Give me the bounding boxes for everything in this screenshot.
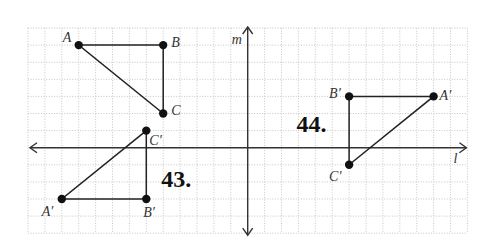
problem-number-44: 44. [296,111,326,137]
axis-m-label: m [232,32,242,47]
problem-43-image-triangle [62,131,147,199]
problem-43-original-point-a [75,41,83,49]
problem-43-original-point-b [159,41,167,49]
problem-43-image-label-b: B′ [143,205,156,220]
problem-43-original-point-c [159,109,167,117]
problem-43-original-label-a: A [62,30,72,45]
problem-43-image-point-a [58,195,66,203]
problem-43-image-label-c: C′ [149,133,162,148]
coordinate-grid-diagram: mlABCA′B′C′A′B′C′43.44. [0,0,485,246]
problem-43-original-label-b: B [171,35,180,50]
problem-44-image-label-c: C′ [329,169,342,184]
problem-43-image-label-a: A′ [41,204,55,219]
labels: mlABCA′B′C′A′B′C′43.44. [41,30,458,220]
problem-44-image-label-a: A′ [439,88,453,103]
problem-43-original-label-c: C [171,103,181,118]
problem-44-image-point-a [429,92,437,100]
problem-44-image-point-c [345,161,353,169]
axis-l-label: l [453,151,457,166]
problem-44-image-point-b [345,92,353,100]
problem-number-43: 43. [161,166,191,192]
problem-44-image-label-b: B′ [329,86,342,101]
problem-43-image-point-b [142,195,150,203]
